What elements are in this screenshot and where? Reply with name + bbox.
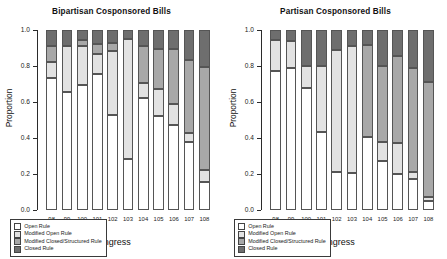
bar-segment[interactable]	[123, 159, 134, 210]
bar-segment[interactable]	[168, 49, 179, 104]
bar-segment[interactable]	[62, 92, 73, 210]
bar-segment[interactable]	[316, 30, 327, 66]
bar-segment[interactable]	[392, 174, 403, 210]
bar-segment[interactable]	[347, 30, 358, 46]
bar-segment[interactable]	[62, 46, 73, 92]
legend-item[interactable]: Open Rule	[238, 223, 326, 230]
bar-segment[interactable]	[138, 83, 149, 97]
bar-segment[interactable]	[392, 143, 403, 175]
stacked-bar[interactable]	[331, 30, 342, 210]
bar-segment[interactable]	[331, 50, 342, 172]
bar-segment[interactable]	[362, 45, 373, 137]
bar-segment[interactable]	[362, 30, 373, 45]
bar-segment[interactable]	[408, 68, 419, 172]
bar-segment[interactable]	[77, 85, 88, 210]
bar-segment[interactable]	[77, 46, 88, 85]
bar-segment[interactable]	[423, 82, 434, 197]
bar-segment[interactable]	[168, 104, 179, 126]
stacked-bar[interactable]	[77, 30, 88, 210]
stacked-bar[interactable]	[362, 30, 373, 210]
bar-segment[interactable]	[301, 88, 312, 210]
stacked-bar[interactable]	[168, 30, 179, 210]
bar-segment[interactable]	[77, 30, 88, 40]
bar-segment[interactable]	[408, 179, 419, 211]
legend-item[interactable]: Modified Open Rule	[238, 231, 326, 238]
stacked-bar[interactable]	[199, 30, 210, 210]
stacked-bar[interactable]	[123, 30, 134, 210]
stacked-bar[interactable]	[138, 30, 149, 210]
legend-item[interactable]: Modified Closed/Structured Rule	[238, 238, 326, 245]
stacked-bar[interactable]	[107, 30, 118, 210]
bar-segment[interactable]	[168, 125, 179, 210]
bar-segment[interactable]	[107, 51, 118, 115]
bar-segment[interactable]	[199, 67, 210, 171]
stacked-bar[interactable]	[46, 30, 57, 210]
bar-segment[interactable]	[153, 89, 164, 116]
bar-segment[interactable]	[184, 142, 195, 210]
bar-segment[interactable]	[423, 30, 434, 82]
stacked-bar[interactable]	[408, 30, 419, 210]
bar-segment[interactable]	[107, 30, 118, 43]
bar-segment[interactable]	[286, 41, 297, 68]
bar-segment[interactable]	[199, 182, 210, 210]
bar-segment[interactable]	[77, 40, 88, 46]
bar-segment[interactable]	[347, 46, 358, 173]
bar-segment[interactable]	[153, 49, 164, 90]
stacked-bar[interactable]	[347, 30, 358, 210]
bar-segment[interactable]	[138, 30, 149, 46]
legend-item[interactable]: Modified Open Rule	[14, 231, 102, 238]
bar-segment[interactable]	[107, 115, 118, 210]
bar-segment[interactable]	[301, 30, 312, 66]
bar-segment[interactable]	[168, 30, 179, 49]
legend-item[interactable]: Open Rule	[14, 223, 102, 230]
stacked-bar[interactable]	[286, 30, 297, 210]
stacked-bar[interactable]	[316, 30, 327, 210]
bar-segment[interactable]	[184, 30, 195, 60]
bar-segment[interactable]	[46, 30, 57, 46]
bar-segment[interactable]	[92, 30, 103, 44]
bar-segment[interactable]	[46, 62, 57, 78]
legend-item[interactable]: Closed Rule	[14, 246, 102, 253]
bar-segment[interactable]	[286, 30, 297, 41]
bar-segment[interactable]	[107, 43, 118, 51]
bar-segment[interactable]	[123, 39, 134, 159]
stacked-bar[interactable]	[392, 30, 403, 210]
stacked-bar[interactable]	[423, 30, 434, 210]
bar-segment[interactable]	[62, 30, 73, 46]
bar-segment[interactable]	[199, 170, 210, 182]
bar-segment[interactable]	[286, 68, 297, 210]
bar-segment[interactable]	[46, 78, 57, 210]
bar-segment[interactable]	[138, 46, 149, 83]
bar-segment[interactable]	[184, 60, 195, 133]
legend-item[interactable]: Closed Rule	[238, 246, 326, 253]
bar-segment[interactable]	[362, 137, 373, 210]
bar-segment[interactable]	[347, 173, 358, 210]
bar-segment[interactable]	[423, 197, 434, 201]
bar-segment[interactable]	[138, 98, 149, 211]
bar-segment[interactable]	[408, 30, 419, 68]
bar-segment[interactable]	[392, 56, 403, 142]
stacked-bar[interactable]	[377, 30, 388, 210]
bar-segment[interactable]	[377, 66, 388, 142]
bar-segment[interactable]	[316, 132, 327, 210]
bar-segment[interactable]	[153, 30, 164, 49]
bar-segment[interactable]	[199, 30, 210, 67]
bar-segment[interactable]	[270, 71, 281, 210]
bar-segment[interactable]	[377, 161, 388, 211]
stacked-bar[interactable]	[270, 30, 281, 210]
bar-segment[interactable]	[331, 30, 342, 50]
stacked-bar[interactable]	[153, 30, 164, 210]
bar-segment[interactable]	[153, 116, 164, 210]
stacked-bar[interactable]	[301, 30, 312, 210]
bar-segment[interactable]	[270, 40, 281, 72]
stacked-bar[interactable]	[62, 30, 73, 210]
bar-segment[interactable]	[392, 30, 403, 56]
bar-segment[interactable]	[184, 133, 195, 142]
bar-segment[interactable]	[270, 30, 281, 40]
bar-segment[interactable]	[92, 54, 103, 74]
bar-segment[interactable]	[377, 30, 388, 66]
bar-segment[interactable]	[408, 172, 419, 178]
bar-segment[interactable]	[46, 46, 57, 61]
bar-segment[interactable]	[123, 30, 134, 39]
bar-segment[interactable]	[92, 74, 103, 210]
